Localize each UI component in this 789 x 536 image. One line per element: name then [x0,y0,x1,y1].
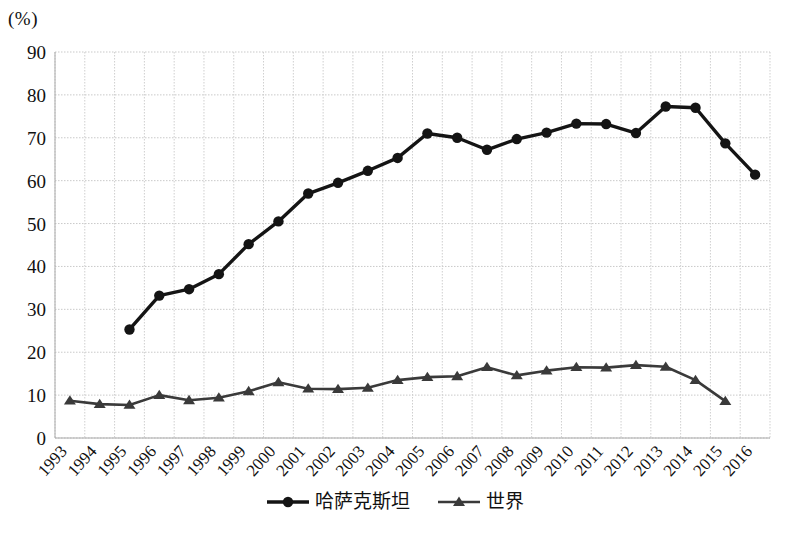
data-point-marker [481,362,493,371]
legend-triangle-marker-icon [436,493,482,511]
x-tick-label: 2015 [689,442,726,480]
series-world [64,360,731,409]
legend-item-label: 世界 [486,492,524,511]
data-point-marker [571,118,581,128]
data-point-marker [720,138,730,148]
data-point-marker [631,128,641,138]
data-point-marker [272,377,284,386]
data-point-marker [184,284,194,294]
y-tick-label: 80 [27,85,46,106]
data-point-marker [601,119,611,129]
x-tick-label: 2013 [630,442,667,480]
x-tick-label: 1996 [123,442,160,480]
y-tick-label: 20 [27,342,46,363]
data-point-marker [124,324,134,334]
x-tick-label: 2005 [391,442,428,480]
legend-item-label: 哈萨克斯坦 [315,492,410,511]
data-point-marker [363,166,373,176]
x-axis-tick-labels: 1993199419951996199719981999200020012002… [34,442,756,480]
y-tick-label: 90 [27,42,46,63]
legend-item[interactable]: 世界 [436,492,524,511]
data-point-marker [392,153,402,163]
data-series-layer [64,101,760,409]
line-chart-plot: 0102030405060708090 19931994199519961997… [0,0,789,536]
data-point-marker [512,134,522,144]
data-point-marker [422,128,432,138]
data-point-marker [541,127,551,137]
data-point-marker [303,188,313,198]
x-tick-label: 2012 [600,442,637,480]
chart-legend: 哈萨克斯坦世界 [0,492,789,511]
x-tick-label: 2011 [571,442,607,480]
x-tick-label: 2003 [332,442,369,480]
y-tick-label: 70 [27,128,46,149]
data-point-marker [283,496,293,506]
x-tick-label: 2007 [451,442,488,480]
x-tick-label: 2009 [511,442,548,480]
x-tick-label: 2006 [421,442,458,480]
x-tick-label: 1998 [183,442,220,480]
x-tick-label: 1999 [213,442,250,480]
x-tick-label: 1997 [153,442,190,480]
data-point-marker [243,239,253,249]
x-tick-label: 2000 [243,442,280,480]
data-point-marker [452,133,462,143]
y-tick-label: 0 [37,428,47,449]
data-point-marker [750,169,760,179]
x-tick-label: 2001 [272,442,309,480]
x-tick-label: 2008 [481,442,518,480]
data-point-marker [273,216,283,226]
x-tick-label: 2010 [540,442,577,480]
chart-container: (%) 0102030405060708090 1993199419951996… [0,0,789,536]
y-tick-label: 60 [27,171,46,192]
y-axis-tick-labels: 0102030405060708090 [27,42,46,449]
x-tick-label: 2016 [719,442,756,480]
x-tick-label: 2004 [362,442,399,480]
y-tick-label: 10 [27,385,46,406]
y-tick-label: 50 [27,214,46,235]
data-point-marker [482,145,492,155]
x-tick-label: 2014 [660,442,697,480]
data-point-marker [690,103,700,113]
legend-circle-marker-icon [265,493,311,511]
x-tick-label: 2002 [302,442,339,480]
x-tick-label: 1995 [94,442,131,480]
data-point-marker [661,101,671,111]
y-tick-label: 30 [27,299,46,320]
data-point-marker [333,178,343,188]
data-point-marker [153,390,165,399]
data-point-marker [214,269,224,279]
y-tick-label: 40 [27,256,46,277]
data-point-marker [154,290,164,300]
x-tick-label: 1994 [64,442,101,480]
legend-item[interactable]: 哈萨克斯坦 [265,492,410,511]
series-line [70,365,725,405]
